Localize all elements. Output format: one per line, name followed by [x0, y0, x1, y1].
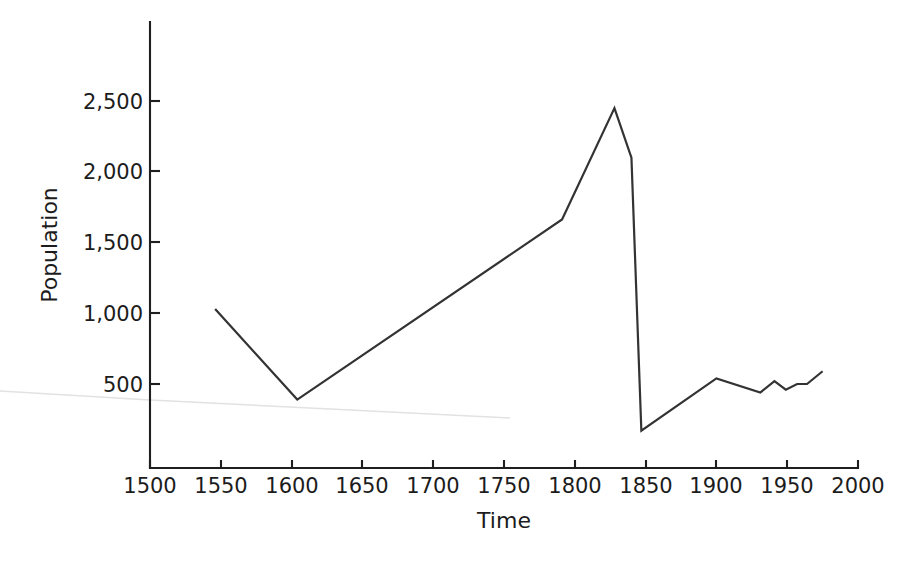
x-tick-label-1850: 1850: [619, 474, 672, 498]
y-tick-marks: [150, 101, 160, 384]
chart-figure: 2,500 2,000 1,500 1,000 500 1500 1550 16…: [0, 0, 921, 561]
y-axis-title: Population: [37, 187, 62, 303]
x-tick-labels: 1500 1550 1600 1650 1700 1750 1800 1850 …: [123, 474, 884, 498]
y-tick-label-1000: 1,000: [83, 302, 143, 326]
chart-svg: 2,500 2,000 1,500 1,000 500 1500 1550 16…: [0, 0, 921, 561]
y-tick-labels: 2,500 2,000 1,500 1,000 500: [83, 90, 143, 397]
y-tick-label-2500: 2,500: [83, 90, 143, 114]
population-series-line: [215, 108, 822, 431]
x-tick-label-1800: 1800: [548, 474, 601, 498]
x-tick-label-1500: 1500: [123, 474, 176, 498]
x-tick-label-1700: 1700: [406, 474, 459, 498]
x-tick-label-1950: 1950: [760, 474, 813, 498]
x-axis-title: Time: [476, 508, 531, 533]
scan-crease-line: [0, 391, 510, 418]
x-tick-label-1900: 1900: [689, 474, 742, 498]
y-tick-label-1500: 1,500: [83, 231, 143, 255]
x-tick-label-2000: 2000: [831, 474, 884, 498]
x-tick-marks: [150, 460, 858, 468]
x-tick-label-1650: 1650: [335, 474, 388, 498]
y-tick-label-2000: 2,000: [83, 160, 143, 184]
x-tick-label-1600: 1600: [265, 474, 318, 498]
x-tick-label-1750: 1750: [477, 474, 530, 498]
x-tick-label-1550: 1550: [194, 474, 247, 498]
y-tick-label-500: 500: [103, 373, 143, 397]
